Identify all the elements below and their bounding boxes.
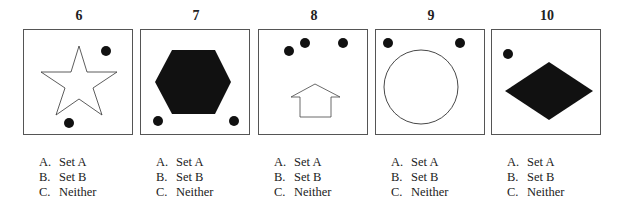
circle-figure: [376, 30, 484, 134]
option-b[interactable]: B.Set B: [507, 170, 564, 185]
dot-icon: [153, 116, 163, 126]
option-c[interactable]: C.Neither: [507, 185, 564, 200]
option-b[interactable]: B.Set B: [39, 170, 96, 185]
dot-icon: [101, 46, 111, 56]
figure-box: [375, 29, 485, 135]
dot-icon: [503, 49, 513, 59]
option-a[interactable]: A.Set A: [274, 155, 331, 170]
option-c[interactable]: C.Neither: [156, 185, 213, 200]
figure-box: [23, 29, 133, 135]
option-c[interactable]: C.Neither: [391, 185, 448, 200]
dot-icon: [64, 118, 74, 128]
dot-icon: [455, 38, 465, 48]
dot-icon: [383, 38, 393, 48]
diamond-figure: [492, 30, 600, 134]
question-number: 8: [258, 8, 370, 24]
option-a[interactable]: A.Set A: [507, 155, 564, 170]
option-c[interactable]: C.Neither: [274, 185, 331, 200]
option-b[interactable]: B.Set B: [274, 170, 331, 185]
option-b[interactable]: B.Set B: [156, 170, 213, 185]
option-a[interactable]: A.Set A: [39, 155, 96, 170]
dot-icon: [300, 38, 310, 48]
question-number: 6: [23, 8, 135, 24]
question-number: 9: [375, 8, 487, 24]
answer-options: A.Set A B.Set B C.Neither: [156, 155, 213, 200]
option-b[interactable]: B.Set B: [391, 170, 448, 185]
figure-box: [258, 29, 368, 135]
arrow-figure: [259, 30, 367, 134]
option-c[interactable]: C.Neither: [39, 185, 96, 200]
figure-box: [140, 29, 250, 135]
star-figure: [24, 30, 132, 134]
answer-options: A.Set A B.Set B C.Neither: [274, 155, 331, 200]
answer-options: A.Set A B.Set B C.Neither: [39, 155, 96, 200]
filled-hexagon-icon: [155, 50, 231, 114]
answer-options: A.Set A B.Set B C.Neither: [391, 155, 448, 200]
outline-star-icon: [41, 46, 117, 115]
question-number: 10: [491, 8, 603, 24]
hexagon-figure: [141, 30, 249, 134]
filled-diamond-icon: [505, 62, 593, 120]
answer-options: A.Set A B.Set B C.Neither: [507, 155, 564, 200]
outline-up-arrow-icon: [291, 84, 340, 117]
figure-box: [491, 29, 601, 135]
dot-icon: [338, 38, 348, 48]
option-a[interactable]: A.Set A: [156, 155, 213, 170]
outline-circle-icon: [384, 50, 458, 124]
question-number: 7: [140, 8, 252, 24]
dot-icon: [229, 116, 239, 126]
option-a[interactable]: A.Set A: [391, 155, 448, 170]
dot-icon: [284, 46, 294, 56]
